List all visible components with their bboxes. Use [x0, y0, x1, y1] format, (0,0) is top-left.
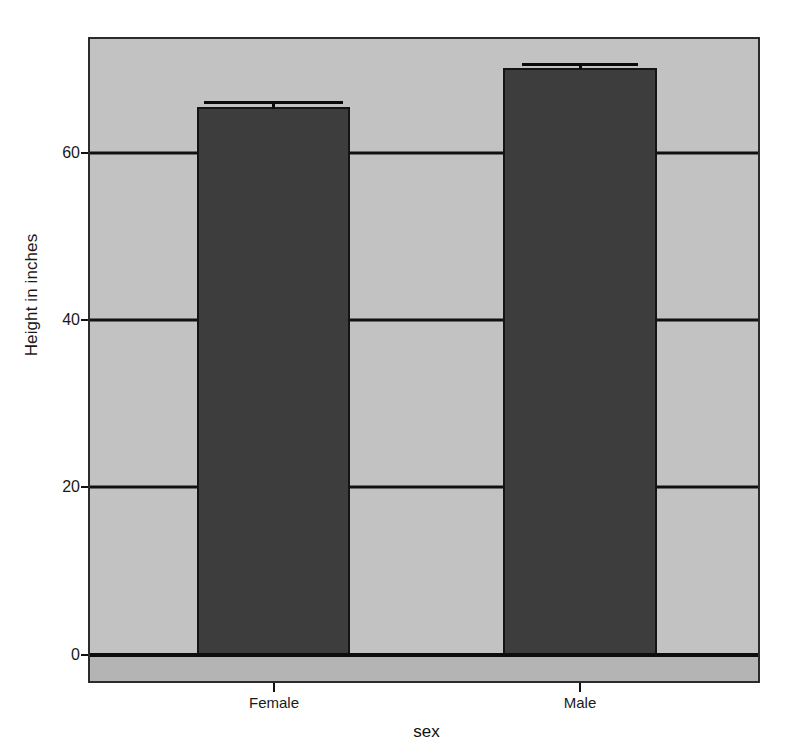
gridline-20 [90, 486, 758, 489]
y-tick-label-40: 40 [40, 311, 80, 329]
gridline-60 [90, 152, 758, 155]
x-tick-mark-male [579, 683, 581, 692]
gridline-40 [90, 319, 758, 322]
y-tick-label-0: 0 [40, 646, 80, 664]
error-bar-male-stem [579, 63, 582, 69]
below-baseline-band [90, 655, 758, 681]
bar-female[interactable] [197, 107, 350, 655]
x-axis-title-wrap: sex [0, 722, 797, 742]
plot-area [88, 37, 760, 683]
error-bar-female-stem [272, 101, 275, 109]
bar-male[interactable] [503, 68, 657, 655]
y-axis-tick-labels: 60 40 20 0 [38, 0, 80, 755]
x-tick-label-female: Female [184, 694, 364, 711]
bar-chart: Height in inches 60 40 20 0 Female Ma [0, 0, 797, 755]
x-axis-title: sex [413, 722, 439, 742]
y-tick-label-20: 20 [40, 478, 80, 496]
x-tick-mark-female [273, 683, 275, 692]
y-tick-label-60: 60 [40, 144, 80, 162]
zero-baseline [90, 653, 758, 657]
x-tick-label-male: Male [490, 694, 670, 711]
